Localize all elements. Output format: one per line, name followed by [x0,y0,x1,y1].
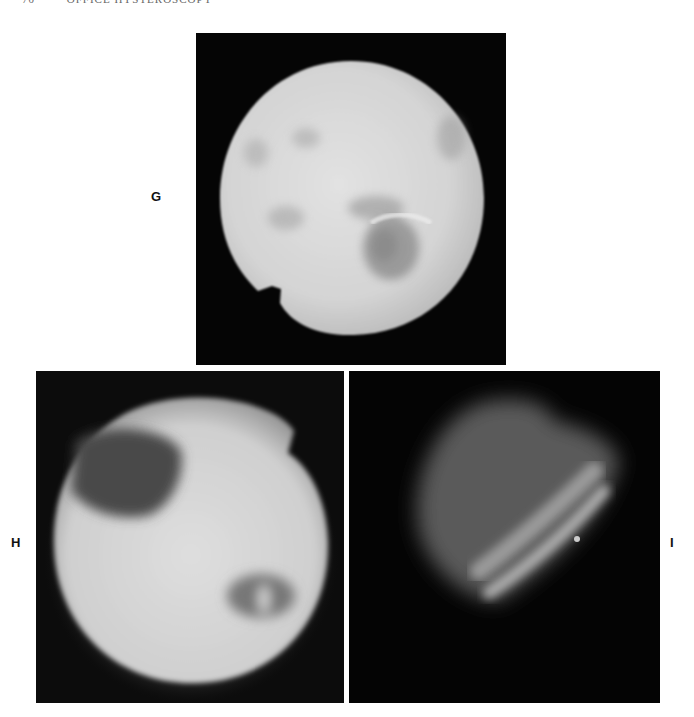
panel-label-i: I [670,535,674,550]
figure-panel-g [196,33,506,365]
running-header: 70 OFFICE HYSTEROSCOPY [22,0,213,5]
figure-panel-i [349,371,660,703]
panel-label-h: H [11,535,20,550]
figure-panel-h [36,371,344,703]
running-title: OFFICE HYSTEROSCOPY [67,0,213,5]
endoscopic-image-g [196,33,506,365]
endoscopic-image-h [36,371,344,703]
panel-label-g: G [151,189,161,204]
endoscopic-image-i [349,371,660,703]
page-number: 70 [22,0,35,5]
